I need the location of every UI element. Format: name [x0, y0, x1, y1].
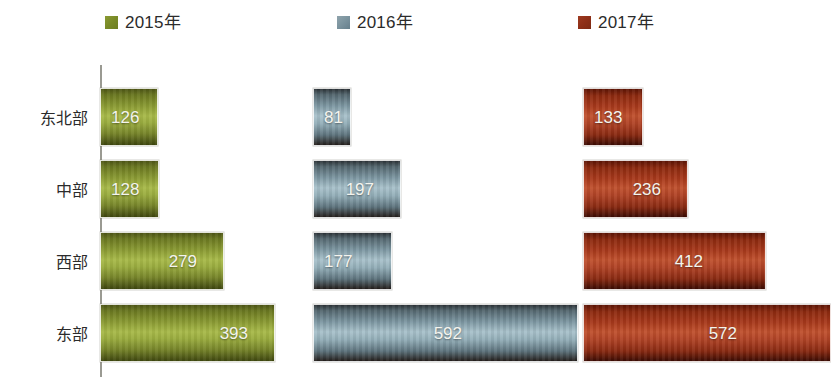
bar-2017-xibu[interactable]: 412 — [583, 232, 766, 290]
bar-value-label: 81 — [314, 109, 343, 126]
legend-label-2017: 2017年 — [598, 14, 654, 31]
grouped-bar-chart: 2015年 2016年 2017年 东北部 中部 西部 东部 126 128 2… — [0, 0, 831, 377]
bar-2016-xibu[interactable]: 177 — [313, 232, 392, 290]
legend-label-2015: 2015年 — [125, 14, 181, 31]
legend-item-2016[interactable]: 2016年 — [337, 10, 413, 34]
bar-value-label: 197 — [346, 181, 400, 198]
bar-2017-dongbeibu[interactable]: 133 — [583, 88, 643, 146]
bar-value-label: 592 — [434, 325, 577, 342]
bar-value-label: 236 — [633, 181, 687, 198]
bar-value-label: 572 — [709, 325, 830, 342]
bar-value-label: 177 — [314, 253, 352, 270]
bar-2015-dongbeibu[interactable]: 126 — [100, 88, 158, 146]
bar-2015-xibu[interactable]: 279 — [100, 232, 224, 290]
legend-swatch-2015-icon — [105, 16, 118, 29]
category-label-xibu: 西部 — [0, 232, 92, 290]
category-label-dongbu: 东部 — [0, 304, 92, 362]
category-label-zhongbu: 中部 — [0, 160, 92, 218]
legend-item-2015[interactable]: 2015年 — [105, 10, 181, 34]
bar-value-label: 412 — [675, 253, 765, 270]
legend-swatch-2016-icon — [337, 16, 350, 29]
plot-area: 东北部 中部 西部 东部 126 128 279 393 81 197 177 … — [0, 48, 831, 377]
chart-legend: 2015年 2016年 2017年 — [0, 0, 831, 48]
bar-value-label: 393 — [220, 325, 274, 342]
bar-value-label: 133 — [584, 109, 622, 126]
bar-2017-dongbu[interactable]: 572 — [583, 304, 831, 362]
bar-2015-zhongbu[interactable]: 128 — [100, 160, 159, 218]
bar-value-label: 279 — [169, 253, 223, 270]
bar-value-label: 126 — [101, 109, 139, 126]
bar-2016-dongbeibu[interactable]: 81 — [313, 88, 351, 146]
legend-item-2017[interactable]: 2017年 — [578, 10, 654, 34]
legend-label-2016: 2016年 — [357, 14, 413, 31]
bar-2017-zhongbu[interactable]: 236 — [583, 160, 688, 218]
bar-value-label: 128 — [101, 181, 139, 198]
legend-swatch-2017-icon — [578, 16, 591, 29]
bar-2015-dongbu[interactable]: 393 — [100, 304, 275, 362]
bar-2016-zhongbu[interactable]: 197 — [313, 160, 401, 218]
bar-2016-dongbu[interactable]: 592 — [313, 304, 578, 362]
category-label-dongbeibu: 东北部 — [0, 88, 92, 146]
